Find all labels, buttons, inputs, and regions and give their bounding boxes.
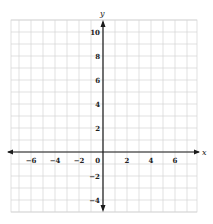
y-axis-down-arrow-icon	[101, 205, 106, 212]
x-tick-label: 0	[95, 156, 100, 165]
x-tick-label: −4	[50, 156, 61, 165]
x-tick-label: 2	[125, 156, 130, 165]
y-tick-label: 6	[95, 76, 100, 85]
x-axis-label: x	[202, 148, 207, 157]
x-tick-label: −6	[26, 156, 37, 165]
x-tick-label: 4	[149, 156, 154, 165]
x-axis-left-arrow-icon	[7, 150, 13, 155]
y-tick-label: 8	[95, 52, 100, 61]
y-tick-label: 4	[95, 100, 100, 109]
y-tick-label: 10	[90, 28, 100, 37]
x-tick-label: 6	[173, 156, 178, 165]
coordinate-plane: −6−4−20246 108642−2−4 x y	[0, 0, 213, 224]
y-tick-label: −4	[89, 196, 100, 205]
grid-lines	[11, 20, 197, 212]
y-axis-up-arrow-icon	[101, 20, 106, 27]
x-tick-label: −2	[74, 156, 85, 165]
y-tick-label: 2	[95, 124, 100, 133]
y-axis-label: y	[99, 9, 105, 18]
y-tick-label: −2	[89, 172, 100, 181]
